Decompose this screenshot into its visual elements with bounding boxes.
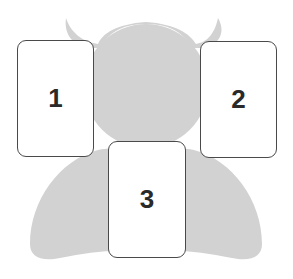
card-label-1: 1: [48, 83, 62, 114]
card-position-1: 1: [17, 40, 94, 157]
card-label-2: 2: [231, 84, 245, 115]
card-position-3: 3: [108, 141, 186, 258]
head: [84, 24, 208, 148]
card-label-3: 3: [140, 184, 154, 215]
card-position-2: 2: [200, 41, 277, 158]
spread-diagram: 1 2 3: [0, 0, 293, 279]
